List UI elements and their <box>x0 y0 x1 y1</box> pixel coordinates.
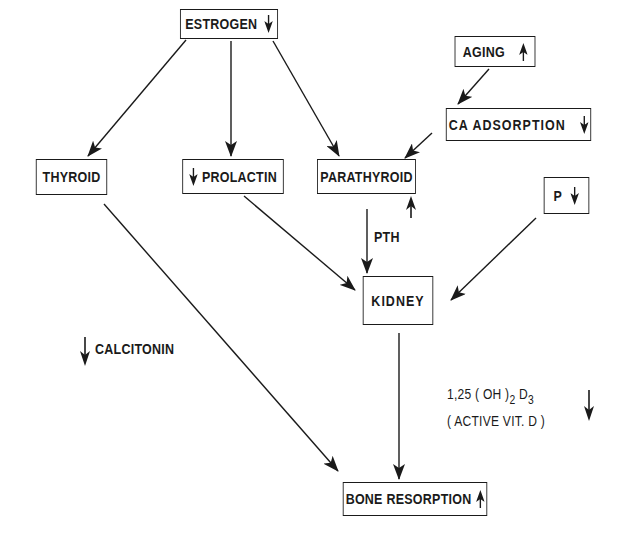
vitd-sub-3: 3 <box>528 393 534 407</box>
calcitonin-label: CALCITONIN <box>95 341 174 357</box>
edge-prolactin-kidney <box>244 196 355 290</box>
node-thyroid-label: THYROID <box>43 169 101 185</box>
vitd-down-arrow-icon <box>584 390 594 421</box>
node-parathyroid: PARATHYROID <box>317 159 416 194</box>
edge-ca-adsorption-parathyroid <box>405 133 432 158</box>
vitd-mid: D <box>515 386 528 402</box>
vitd-active-label: ( ACTIVE VIT. D ) <box>447 413 545 429</box>
node-prolactin: PROLACTIN <box>182 159 283 194</box>
vitd-sub-2: 2 <box>509 393 515 407</box>
edge-aging-ca-adsorption <box>458 69 489 104</box>
edge-estrogen-parathyroid <box>273 41 339 156</box>
node-aging-label: AGING <box>463 44 505 60</box>
node-ca-adsorption-label: CA ADSORPTION <box>449 117 566 133</box>
node-kidney: KIDNEY <box>363 276 434 325</box>
diagram-canvas: ESTROGEN AGING CA ADSORPTION THYROID PRO… <box>0 0 626 542</box>
down-arrow-icon <box>571 187 580 205</box>
node-estrogen: ESTROGEN <box>180 9 278 39</box>
down-arrow-icon <box>580 116 589 134</box>
node-bone-resorption: BONE RESORPTION <box>343 482 487 516</box>
node-prolactin-label: PROLACTIN <box>202 169 277 185</box>
node-p: P <box>544 177 590 214</box>
node-ca-adsorption: CA ADSORPTION <box>446 108 591 141</box>
node-p-label: P <box>554 188 563 204</box>
edges-layer <box>0 0 626 542</box>
node-aging: AGING <box>455 36 536 67</box>
edge-thyroid-bone-resorption <box>104 204 338 471</box>
node-thyroid: THYROID <box>36 159 107 195</box>
down-arrow-icon <box>189 168 198 186</box>
vitd-formula: 1,25 ( OH )2 D3 <box>447 386 534 402</box>
node-bone-resorption-label: BONE RESORPTION <box>346 491 472 507</box>
calcitonin-down-arrow-icon <box>80 337 90 366</box>
down-arrow-icon <box>264 15 273 33</box>
node-estrogen-label: ESTROGEN <box>185 16 257 32</box>
vitd-prefix: 1,25 ( OH ) <box>447 386 509 402</box>
up-arrow-icon <box>476 490 485 508</box>
node-parathyroid-label: PARATHYROID <box>320 169 412 185</box>
node-kidney-label: KIDNEY <box>371 293 424 309</box>
pth-label: PTH <box>374 229 400 245</box>
edge-p-kidney <box>451 218 536 300</box>
edge-estrogen-thyroid <box>88 40 186 156</box>
up-arrow-icon <box>519 43 528 61</box>
pth-up-arrow-icon <box>406 196 416 218</box>
